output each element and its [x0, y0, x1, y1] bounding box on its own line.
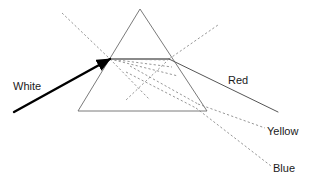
ray-label-white: White [13, 80, 41, 92]
ray-label-red: Red [228, 74, 248, 86]
internal-dashed-ray-2 [110, 59, 172, 67]
internal-dashed-ray-3 [110, 59, 178, 76]
internal-dashed-to-corner-1 [130, 66, 198, 104]
red-exit-ray [169, 59, 278, 112]
prism-dispersion-diagram: White Red Yellow Blue [0, 0, 314, 185]
ray-label-blue: Blue [273, 162, 295, 174]
internal-dashed-ray-4 [110, 59, 150, 100]
construction-lines-group [62, 13, 218, 108]
ray-label-yellow: Yellow [267, 125, 298, 137]
diagram-canvas: White Red Yellow Blue [0, 0, 314, 185]
upper-right-dashed-extension [169, 25, 218, 59]
yellow-exit-ray [198, 104, 265, 128]
upper-left-dashed-extension [62, 13, 110, 59]
blue-exit-ray [196, 108, 271, 166]
